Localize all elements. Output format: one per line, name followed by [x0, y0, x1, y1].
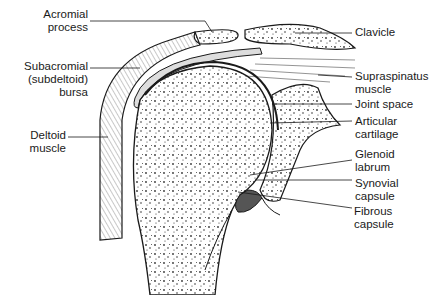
label-articular-cartilage: Articular cartilage [355, 115, 398, 141]
label-line: process [8, 21, 88, 34]
label-supraspinatus-muscle: Supraspinatus muscle [355, 70, 429, 96]
clavicle-shape [245, 24, 355, 49]
label-line: Clavicle [355, 26, 395, 39]
label-glenoid-labrum: Glenoid labrum [355, 148, 395, 174]
label-line: labrum [355, 161, 395, 174]
label-line: cartilage [355, 128, 398, 141]
label-deltoid-muscle: Deltoid muscle [4, 129, 66, 155]
label-synovial-capsule: Synovial capsule [355, 177, 398, 203]
label-line: capsule [354, 218, 394, 231]
label-line: Joint space [355, 98, 413, 111]
label-line: Glenoid [355, 148, 395, 161]
label-line: Articular [355, 115, 398, 128]
label-subacromial-bursa: Subacromial (subdeltoid) bursa [4, 60, 88, 99]
humeral-head [133, 66, 272, 295]
label-acromial-process: Acromial process [8, 8, 88, 34]
label-line: Deltoid [4, 129, 66, 142]
label-line: Supraspinatus [355, 70, 429, 83]
label-line: Subacromial [4, 60, 88, 73]
label-line: Fibrous [354, 205, 394, 218]
label-fibrous-capsule: Fibrous capsule [354, 205, 394, 231]
label-line: muscle [4, 142, 66, 155]
label-line: capsule [355, 190, 398, 203]
label-line: bursa [4, 86, 88, 99]
label-line: Synovial [355, 177, 398, 190]
label-clavicle: Clavicle [355, 26, 395, 39]
label-line: (subdeltoid) [4, 73, 88, 86]
label-line: Acromial [8, 8, 88, 21]
label-line: muscle [355, 83, 429, 96]
label-joint-space: Joint space [355, 98, 413, 111]
acromion-shape [194, 30, 238, 44]
